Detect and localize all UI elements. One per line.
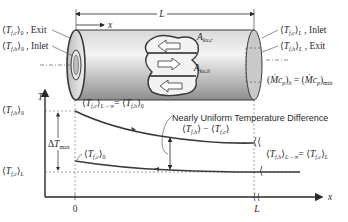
y-axis-label: T	[38, 92, 44, 102]
right-outer-inlet-label: ⟨Tf,c⟩L , Inlet	[280, 25, 327, 36]
x-tick-L: L	[253, 204, 259, 214]
cold-flow-direction-icon	[154, 167, 159, 171]
right-end-cap	[246, 30, 262, 100]
cold-outlet-label: ⟨Tf,c⟩0	[84, 149, 106, 160]
x-tick-zero: 0	[73, 204, 78, 214]
tube-illustration: L x Aku,c Aku,h ⟨Tf,c⟩0 ,	[2, 8, 332, 100]
uniform-difference-title: Nearly Uniform Temperature Difference	[172, 113, 328, 123]
y-tick-cold-inlet: ⟨Tf,c⟩L	[2, 166, 25, 177]
left-outer-exit-label: ⟨Tf,c⟩0 , Exit	[2, 25, 47, 36]
y-tick-hot-inlet: ⟨Tf,h⟩0	[2, 105, 24, 116]
length-label: L	[158, 9, 164, 19]
capacity-rate-label: (Ṁcp)h = (Ṁcp)min	[267, 74, 332, 86]
tube-x-label: x	[107, 20, 113, 30]
right-inner-exit-label: ⟨Tf,h⟩L , Exit	[280, 41, 326, 52]
temperature-plot: T x 0 L ⟨Tf,h⟩0 ⟨Tf,c⟩L ΔTmax ⟨Tf,c⟩L→∞=…	[2, 90, 333, 214]
hot-outlet-limit-label: ⟨Tf,h⟩L→∞= ⟨Tf,c⟩L	[266, 149, 329, 160]
heat-exchanger-diagram: L x Aku,c Aku,h ⟨Tf,c⟩0 ,	[0, 0, 348, 222]
left-inner-inlet-label: ⟨Tf,h⟩0 , Inlet	[2, 41, 49, 52]
cold-fluid-curve	[75, 161, 300, 172]
uniform-difference-expression: ⟨Tf,h⟩ − ⟨Tf,c⟩	[182, 124, 230, 135]
x-axis-label: x	[327, 192, 333, 202]
